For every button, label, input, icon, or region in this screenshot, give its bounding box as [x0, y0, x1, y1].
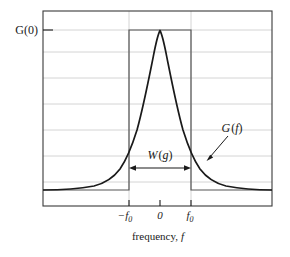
- x-tick-label-zero: 0: [157, 209, 163, 221]
- y-axis-value-label: G(0): [15, 23, 38, 37]
- curve-annotation-label: G(f): [221, 121, 242, 135]
- chart-canvas: G(0) −f0 0 f0 frequency,f W(g) G(f): [0, 0, 290, 257]
- width-annotation-label: W(g): [148, 148, 173, 162]
- spectrum-figure: G(0) −f0 0 f0 frequency,f W(g) G(f): [0, 0, 290, 257]
- x-axis-caption: frequency,f: [132, 230, 186, 242]
